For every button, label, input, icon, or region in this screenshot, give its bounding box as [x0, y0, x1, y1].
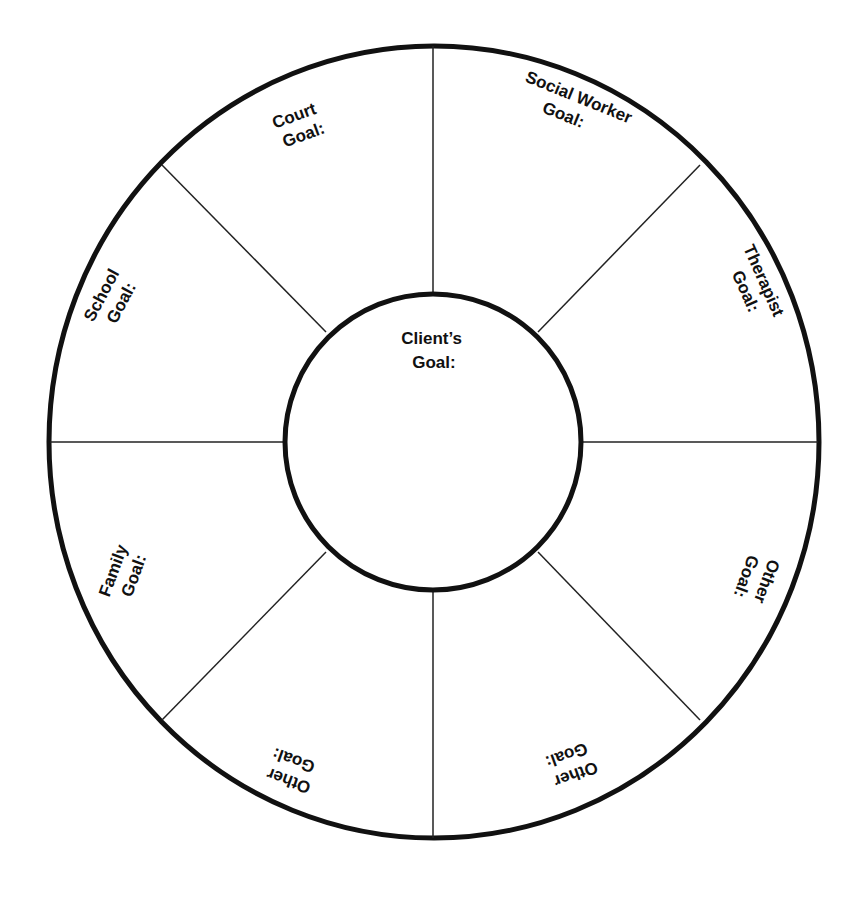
client-goal-line2: Goal:	[412, 353, 455, 372]
goal-wheel-diagram: Client’s Goal: Court Goal: Social Worker…	[0, 0, 852, 898]
client-goal-line1: Client’s	[401, 329, 462, 348]
